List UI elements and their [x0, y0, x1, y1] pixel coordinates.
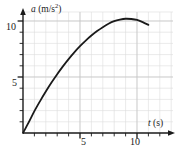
- plot-canvas: [0, 0, 179, 159]
- y-axis: [20, 8, 26, 133]
- y-axis-title-close: ): [58, 4, 61, 14]
- y-tick-label-5: 5: [12, 78, 17, 88]
- x-axis-ticks: [34, 133, 159, 138]
- x-axis-unit: (s): [153, 118, 163, 128]
- y-axis-title: a (m/s2): [31, 5, 61, 15]
- y-axis-arrowhead: [20, 8, 26, 15]
- x-axis-symbol: t: [148, 118, 151, 128]
- x-tick-label-10: 10: [130, 137, 140, 147]
- y-axis-ticks: [18, 21, 23, 122]
- acceleration-time-graph: a (m/s2) t (s) 10 5 5 10: [0, 0, 179, 159]
- y-axis-title-open: (m/s: [36, 4, 55, 14]
- x-tick-label-5: 5: [81, 137, 86, 147]
- acceleration-curve: [23, 19, 148, 133]
- y-tick-label-10: 10: [6, 22, 16, 32]
- x-axis-title: t (s): [148, 119, 163, 129]
